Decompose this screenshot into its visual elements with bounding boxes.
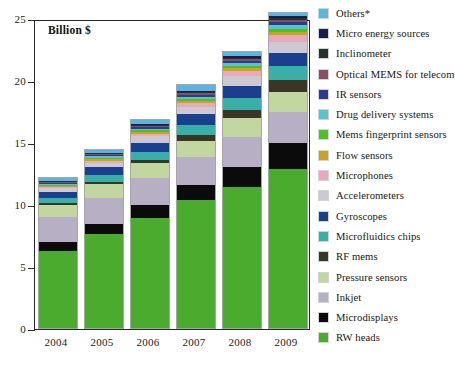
legend-swatch xyxy=(318,332,329,343)
legend-label: Mems fingerprint sensors xyxy=(336,129,447,140)
x-axis-tick-label: 2006 xyxy=(123,336,173,348)
legend-item[interactable]: Drug delivery systems xyxy=(318,104,453,124)
bar-segment xyxy=(85,234,123,328)
bar-segment xyxy=(269,53,307,67)
legend-swatch xyxy=(318,312,329,323)
bar-segment xyxy=(131,218,169,328)
y-axis-tick-label: 25 xyxy=(2,13,26,25)
bar-segment xyxy=(223,86,261,98)
legend-label: Inclinometer xyxy=(336,48,391,59)
bar-2004[interactable] xyxy=(38,177,78,329)
legend-swatch xyxy=(318,109,329,120)
y-axis-tick-label: 15 xyxy=(2,137,26,149)
bar-segment xyxy=(131,205,169,217)
y-axis-tick-label: 0 xyxy=(2,323,26,335)
legend-item[interactable]: Others* xyxy=(318,3,453,23)
bar-segment xyxy=(177,114,215,125)
bar-segment xyxy=(269,143,307,169)
legend-label: Pressure sensors xyxy=(336,272,407,283)
legend-swatch xyxy=(318,129,329,140)
legend-label: Others* xyxy=(336,8,370,19)
legend-item[interactable]: Optical MEMS for telecom xyxy=(318,64,453,84)
bar-segment xyxy=(131,143,169,152)
bar-2005[interactable] xyxy=(84,149,124,329)
bar-segment xyxy=(85,167,123,174)
legend-item[interactable]: Microdisplays xyxy=(318,307,453,327)
legend-label: Microdisplays xyxy=(336,312,398,323)
bar-2007[interactable] xyxy=(176,84,216,329)
legend-label: Microphones xyxy=(336,170,393,181)
y-axis-tick-label: 20 xyxy=(2,75,26,87)
legend-label: Optical MEMS for telecom xyxy=(336,69,455,80)
bar-segment xyxy=(177,185,215,200)
bar-segment xyxy=(223,110,261,119)
bar-2008[interactable] xyxy=(222,51,262,329)
legend-label: RF mems xyxy=(336,251,378,262)
legend-item[interactable]: Mems fingerprint sensors xyxy=(318,125,453,145)
bar-segment xyxy=(85,184,123,198)
legend-label: Gyroscopes xyxy=(336,211,387,222)
bar-segment xyxy=(223,98,261,110)
legend-swatch xyxy=(318,190,329,201)
y-axis-tick-label: 5 xyxy=(2,261,26,273)
legend-label: Micro energy sources xyxy=(336,28,430,39)
bar-segment xyxy=(269,66,307,80)
bars-container xyxy=(35,21,309,329)
legend-swatch xyxy=(318,211,329,222)
legend-swatch xyxy=(318,89,329,100)
bar-segment xyxy=(85,198,123,224)
legend-label: Drug delivery systems xyxy=(336,109,433,120)
bar-segment xyxy=(269,169,307,328)
legend-swatch xyxy=(318,28,329,39)
legend-item[interactable]: RW heads xyxy=(318,328,453,348)
bar-2006[interactable] xyxy=(130,119,170,329)
bar-segment xyxy=(85,175,123,182)
legend-swatch xyxy=(318,69,329,80)
bar-segment xyxy=(177,107,215,114)
legend-label: Microfluidics chips xyxy=(336,231,421,242)
legend-swatch xyxy=(318,48,329,59)
bar-segment xyxy=(223,118,261,137)
bar-segment xyxy=(177,200,215,328)
legend-label: Flow sensors xyxy=(336,150,393,161)
legend-swatch xyxy=(318,150,329,161)
x-axis-tick-label: 2009 xyxy=(261,336,311,348)
legend-item[interactable]: Accelerometers xyxy=(318,186,453,206)
bar-segment xyxy=(39,251,77,328)
bar-segment xyxy=(223,76,261,85)
bar-segment xyxy=(269,112,307,143)
x-axis-tick-label: 2004 xyxy=(31,336,81,348)
bar-segment xyxy=(131,152,169,160)
legend-swatch xyxy=(318,8,329,19)
legend-swatch xyxy=(318,292,329,303)
bar-segment xyxy=(39,242,77,251)
legend-item[interactable]: RF mems xyxy=(318,247,453,267)
x-axis-tick-label: 2008 xyxy=(215,336,265,348)
legend-label: Inkjet xyxy=(336,292,361,303)
bar-segment xyxy=(269,92,307,112)
legend-item[interactable]: Microphones xyxy=(318,165,453,185)
legend-label: Accelerometers xyxy=(336,190,404,201)
units-annotation: Billion $ xyxy=(48,24,91,36)
bar-segment xyxy=(39,217,77,242)
chart-legend: Others*Micro energy sourcesInclinometerO… xyxy=(318,3,453,348)
bar-2009[interactable] xyxy=(268,12,308,329)
legend-item[interactable]: Microfluidics chips xyxy=(318,226,453,246)
legend-item[interactable]: Inkjet xyxy=(318,287,453,307)
bar-segment xyxy=(223,187,261,328)
bar-segment xyxy=(223,167,261,187)
legend-item[interactable]: Flow sensors xyxy=(318,145,453,165)
legend-item[interactable]: Pressure sensors xyxy=(318,267,453,287)
legend-item[interactable]: Micro energy sources xyxy=(318,23,453,43)
bar-segment xyxy=(39,205,77,217)
legend-item[interactable]: Gyroscopes xyxy=(318,206,453,226)
x-axis-tick-label: 2005 xyxy=(77,336,127,348)
legend-swatch xyxy=(318,272,329,283)
legend-swatch xyxy=(318,231,329,242)
x-axis-tick-label: 2007 xyxy=(169,336,219,348)
bar-segment xyxy=(177,125,215,135)
legend-label: RW heads xyxy=(336,332,380,343)
legend-item[interactable]: IR sensors xyxy=(318,84,453,104)
legend-item[interactable]: Inclinometer xyxy=(318,44,453,64)
